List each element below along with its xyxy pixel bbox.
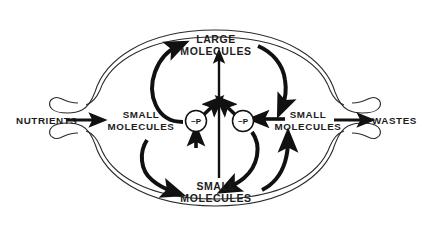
small-molecules-right-line2: MOLECULES [275,121,342,132]
small-molecules-left-line1: SMALL [123,109,160,120]
energy-carrier-left: ~P [186,111,207,132]
p-circle-left-label: ~P [191,117,202,126]
left-down-to-bottom-arrow [142,140,174,192]
large-molecules-line1: LARGE [196,33,236,45]
energy-carrier-right: ~P [233,111,254,132]
large-molecules-line2: MOLECULES [180,45,251,57]
wastes-label: WASTES [372,115,417,126]
node-small-molecules-left: SMALL MOLECULES [108,109,175,132]
small-molecules-right-line1: SMALL [290,109,327,120]
diagram-canvas: ~P ~P LARGE MOLECULES SMALL MOLECULES SM… [0,0,431,236]
p-circle-right-label: ~P [238,117,249,126]
nutrients-label: NUTRIENTS [16,115,77,126]
small-molecules-left-line2: MOLECULES [108,121,175,132]
node-large-molecules: LARGE MOLECULES [180,33,251,57]
cell-metabolism-diagram: ~P ~P LARGE MOLECULES SMALL MOLECULES SM… [0,0,431,236]
large-down-to-right-arrow [258,46,286,107]
node-small-molecules-right: SMALL MOLECULES [275,109,342,132]
node-small-molecules-bottom: SMALL MOLECULES [180,180,251,204]
small-molecules-bottom-line2: MOLECULES [180,192,251,204]
small-molecules-bottom-line1: SMALL [196,180,235,192]
bottom-up-to-right-arrow [262,140,288,190]
